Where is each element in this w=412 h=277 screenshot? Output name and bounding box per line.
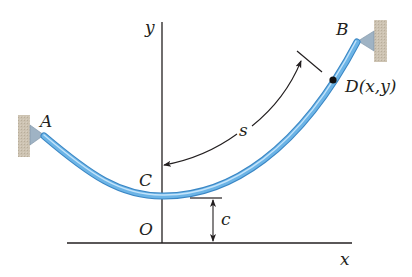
- support-b: [358, 20, 387, 62]
- sag-dimension: [190, 198, 222, 241]
- label-origin: O: [139, 219, 153, 239]
- label-point-d: D(x,y): [344, 76, 397, 96]
- label-arc-s: s: [239, 120, 248, 140]
- arc-length-arrow-upper: [252, 61, 301, 126]
- y-axis-label: y: [144, 17, 155, 37]
- label-b: B: [335, 19, 349, 39]
- bracket-b: [358, 31, 374, 51]
- label-c-point: C: [139, 170, 152, 190]
- wall-b: [374, 20, 387, 62]
- arc-length-dimension: [164, 51, 322, 165]
- arc-length-arrow-lower: [164, 134, 237, 165]
- point-d-marker: [329, 76, 336, 83]
- label-sag-c: c: [221, 209, 231, 229]
- cable: [44, 41, 357, 196]
- label-a: A: [38, 111, 52, 131]
- x-axis-label: x: [340, 249, 350, 269]
- wall-a: [18, 115, 30, 157]
- catenary-cable-diagram: y x A B C O D(x,y) s c: [0, 0, 412, 277]
